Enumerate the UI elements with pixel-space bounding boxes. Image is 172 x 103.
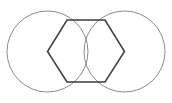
geometry-figure bbox=[0, 0, 172, 103]
hexagon bbox=[48, 20, 125, 82]
figure-canvas bbox=[0, 0, 172, 103]
